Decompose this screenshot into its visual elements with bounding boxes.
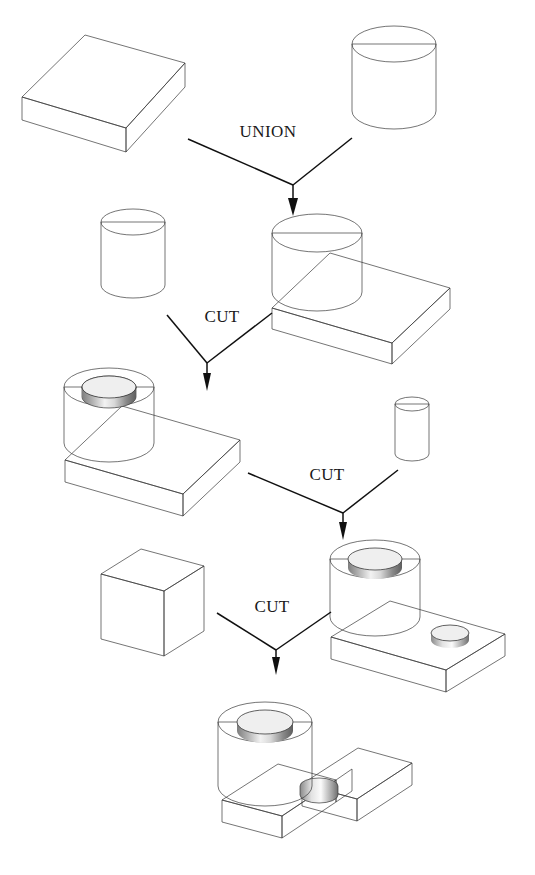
- arrow-union: [188, 138, 352, 216]
- node-bore-cylinder: [101, 209, 165, 298]
- node-part-with-small-hole: [330, 540, 505, 692]
- node-slot-cutter-block: [101, 549, 204, 656]
- node-block-with-boss: [272, 214, 450, 364]
- operation-label-cut-3: CUT: [254, 597, 289, 616]
- node-large-cylinder: [352, 26, 436, 129]
- node-block-with-bored-boss: [64, 368, 240, 516]
- operation-label-cut-1: CUT: [204, 307, 239, 326]
- csg-construction-figure: UNION CUT: [0, 0, 535, 875]
- node-rectangular-block: [22, 35, 185, 152]
- operation-label-union: UNION: [240, 122, 297, 141]
- node-final-slotted-part: [218, 702, 412, 838]
- node-small-pin-cylinder: [395, 397, 429, 461]
- operation-label-cut-2: CUT: [309, 465, 344, 484]
- arrow-cut-3: [217, 612, 331, 675]
